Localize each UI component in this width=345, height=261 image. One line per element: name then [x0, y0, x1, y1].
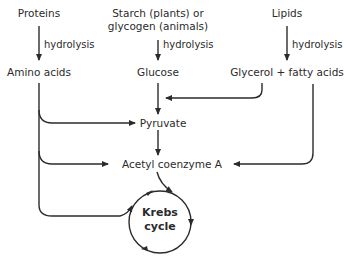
- lipids-label: Lipids: [272, 7, 303, 19]
- pyruvate-label: Pyruvate: [140, 117, 187, 129]
- lipids-hydrolysis-label: hydrolysis: [292, 39, 343, 51]
- amino-acids-label: Amino acids: [7, 66, 71, 78]
- starch-label-line2: glycogen (animals): [108, 20, 208, 32]
- proteins-hydrolysis-label: hydrolysis: [44, 39, 95, 51]
- metabolism-diagram: Proteins Starch (plants) or glycogen (an…: [0, 0, 345, 261]
- starch-hydrolysis-label: hydrolysis: [163, 39, 214, 51]
- krebs-label-line2: cycle: [144, 221, 175, 233]
- glucose-label: Glucose: [137, 66, 179, 78]
- starch-label-line1: Starch (plants) or: [112, 7, 204, 19]
- amino-to-krebs-arrow: [39, 83, 132, 216]
- glycerol-to-glucose-arrow: [166, 83, 262, 98]
- amino-to-acetyl-arrow: [39, 151, 108, 164]
- krebs-label-line1: Krebs: [142, 207, 178, 219]
- acetyl-coa-label: Acetyl coenzyme A: [122, 158, 222, 170]
- fatty-acids-to-acetyl-arrow: [234, 84, 313, 164]
- proteins-label: Proteins: [18, 7, 60, 19]
- amino-to-pyruvate-arrow: [39, 110, 135, 123]
- acetyl-to-krebs-arrow: [157, 172, 172, 192]
- glycerol-fatty-acids-label: Glycerol + fatty acids: [230, 66, 344, 78]
